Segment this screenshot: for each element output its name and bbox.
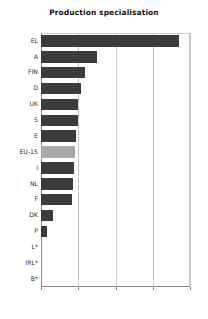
gridline-400: [190, 33, 191, 287]
y-axis-label: I: [0, 165, 38, 171]
bar-row: [41, 144, 190, 160]
y-axis-label: UK: [0, 101, 38, 107]
x-tick-mark: [41, 287, 42, 290]
x-tick-mark: [116, 287, 117, 290]
chart-title: Production specialisation: [0, 8, 208, 17]
y-axis-label: FIN: [0, 69, 38, 75]
production-specialisation-chart: Production specialisation ELAFINDUKSEEU-…: [0, 0, 208, 319]
y-axis-label: L*: [0, 244, 38, 250]
bar-P: [41, 226, 47, 237]
x-axis-ticks: 0100200300400: [41, 33, 190, 93]
bar-DK: [41, 210, 53, 221]
bar-row: [41, 239, 190, 255]
y-axis-label: P: [0, 228, 38, 234]
bar-EU15: [41, 146, 75, 157]
y-axis-label: A: [0, 54, 38, 60]
y-axis-label: F: [0, 196, 38, 202]
bar-E: [41, 130, 76, 141]
bar-S: [41, 115, 78, 126]
x-tick-mark: [190, 287, 191, 290]
y-axis-label: D: [0, 85, 38, 91]
y-axis-label: S: [0, 117, 38, 123]
bar-row: [41, 97, 190, 113]
bar-NL: [41, 178, 73, 189]
bar-row: [41, 208, 190, 224]
x-tick-mark: [78, 287, 79, 290]
y-axis-label: NL: [0, 181, 38, 187]
y-axis-label: DK: [0, 212, 38, 218]
bar-row: [41, 224, 190, 240]
bar-F: [41, 194, 72, 205]
bar-row: [41, 255, 190, 271]
y-axis-label: B*: [0, 276, 38, 282]
bar-row: [41, 271, 190, 287]
y-axis-labels: ELAFINDUKSEEU-15INLFDKPL*IRL*B*: [0, 33, 38, 287]
x-tick-mark: [153, 287, 154, 290]
bar-row: [41, 192, 190, 208]
bar-row: [41, 176, 190, 192]
y-axis-label: EL: [0, 38, 38, 44]
bar-row: [41, 112, 190, 128]
y-axis-label: E: [0, 133, 38, 139]
y-axis-label: EU-15: [0, 149, 38, 155]
y-axis-label: IRL*: [0, 260, 38, 266]
bar-row: [41, 160, 190, 176]
bar-I: [41, 162, 74, 173]
bar-row: [41, 128, 190, 144]
bar-UK: [41, 99, 78, 110]
